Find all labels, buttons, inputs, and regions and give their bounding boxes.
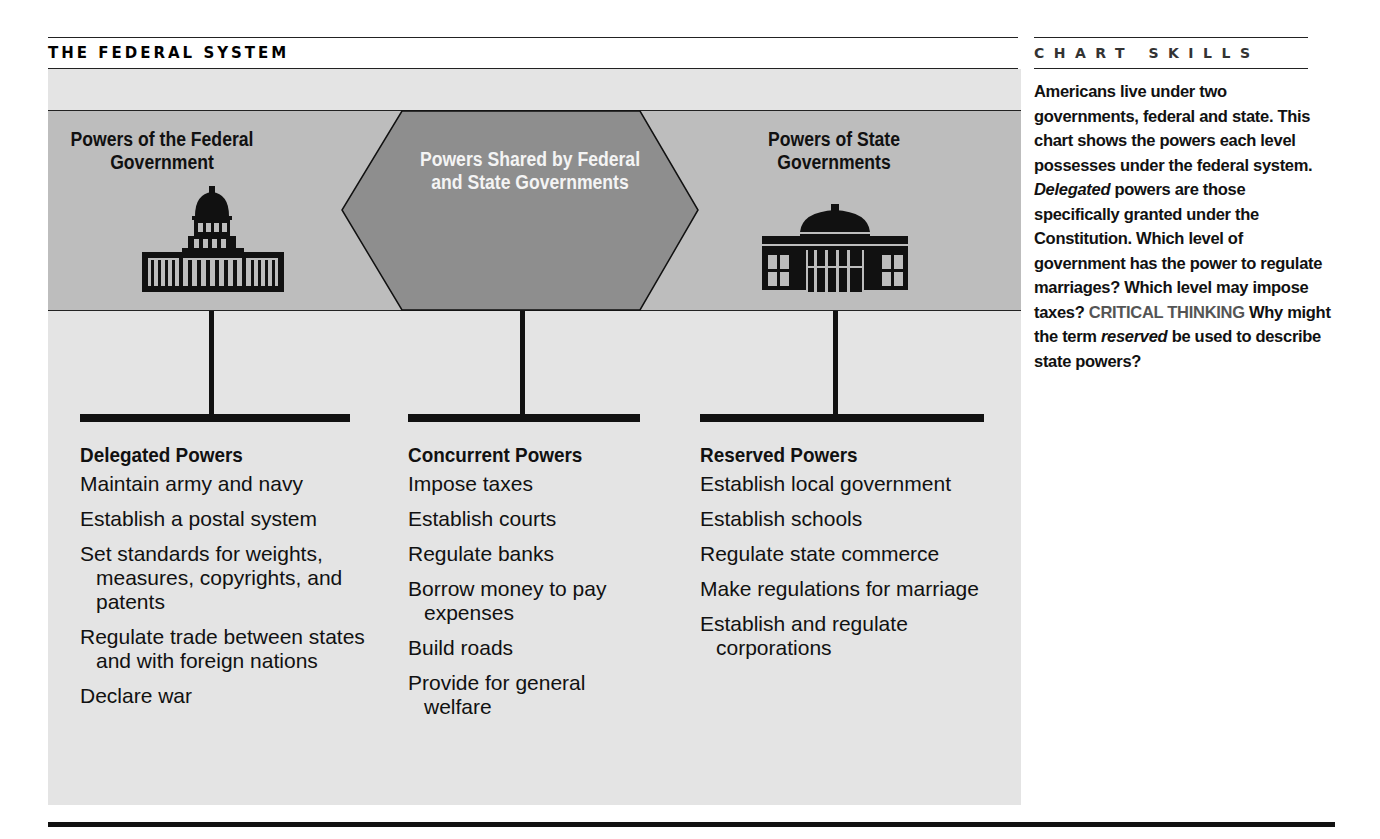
power-item: Regulate trade between states and with f… [80, 625, 380, 673]
state-connector [833, 311, 838, 415]
power-item: Declare war [80, 684, 380, 708]
power-item: Set standards for weights, measures, cop… [80, 542, 380, 614]
critical-thinking-label: CRITICAL THINKING [1089, 303, 1245, 321]
sidebar-italic-term: Delegated [1034, 180, 1110, 198]
column-title: Concurrent Powers [408, 442, 615, 468]
power-item: Provide for general welfare [408, 671, 638, 719]
power-item: Regulate state commerce [700, 542, 1000, 566]
power-item: Build roads [408, 636, 638, 660]
chart-skills-heading: CHART SKILLS [1034, 37, 1308, 69]
power-item: Establish schools [700, 507, 1000, 531]
state-powers-heading: Powers of State Governments [716, 128, 952, 174]
chart-skills-sidebar: CHART SKILLS Americans live under two go… [1034, 37, 1308, 373]
column-title: Reserved Powers [700, 442, 970, 468]
power-item: Establish local government [700, 472, 1000, 496]
title-bar: THE FEDERAL SYSTEM [48, 37, 1018, 69]
power-item: Make regulations for marriage [700, 577, 1000, 601]
federal-bracket [80, 414, 350, 422]
power-item: Maintain army and navy [80, 472, 380, 496]
sidebar-text: Americans live under two governments, fe… [1034, 82, 1312, 174]
shared-powers-hexagon [340, 110, 700, 311]
chart-title: THE FEDERAL SYSTEM [48, 44, 289, 62]
power-item: Establish a postal system [80, 507, 380, 531]
power-item: Borrow money to pay expenses [408, 577, 638, 625]
capitol-building-icon [142, 186, 284, 292]
concurrent-powers-column: Concurrent Powers Impose taxes Establish… [408, 442, 638, 730]
federal-powers-heading: Powers of the Federal Government [53, 128, 271, 174]
shared-powers-heading: Powers Shared by Federal and State Gover… [416, 148, 645, 194]
shared-connector [520, 311, 525, 415]
power-item: Establish courts [408, 507, 638, 531]
column-title: Delegated Powers [80, 442, 350, 468]
shared-bracket [408, 414, 640, 422]
state-bracket [700, 414, 984, 422]
power-item: Impose taxes [408, 472, 638, 496]
reserved-powers-column: Reserved Powers Establish local governme… [700, 442, 1000, 671]
power-item: Regulate banks [408, 542, 638, 566]
power-item: Establish and regulate corporations [700, 612, 1000, 660]
sidebar-italic-term: reserved [1101, 327, 1167, 345]
chart-skills-text: Americans live under two governments, fe… [1034, 79, 1334, 373]
sidebar-text: powers are those specifically granted un… [1034, 180, 1322, 321]
statehouse-icon [762, 204, 908, 292]
federal-connector [209, 311, 214, 415]
bottom-rule [48, 822, 1335, 827]
delegated-powers-column: Delegated Powers Maintain army and navy … [80, 442, 380, 719]
